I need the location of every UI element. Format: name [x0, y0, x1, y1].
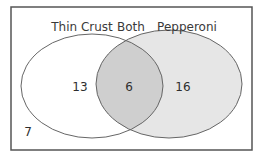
pepperoni-label: Pepperoni [157, 20, 217, 34]
both-count: 6 [125, 80, 133, 94]
both-label: Both [117, 20, 145, 34]
thin-crust-label: Thin Crust [50, 20, 113, 34]
pepperoni-only-count: 16 [175, 80, 190, 94]
thin-crust-only-count: 13 [72, 80, 87, 94]
neither-count: 7 [24, 125, 32, 139]
venn-diagram: Thin Crust Both Pepperoni 13 6 16 7 [0, 0, 262, 154]
